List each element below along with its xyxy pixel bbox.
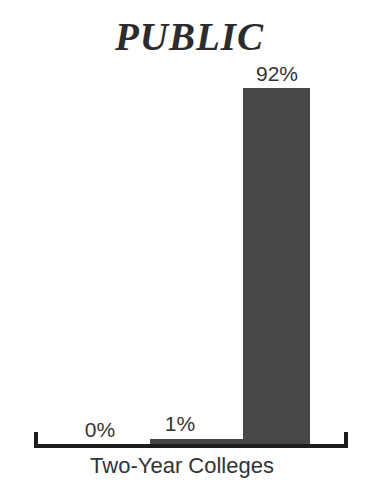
bar-value-label-92: 92% xyxy=(237,62,317,86)
x-axis-cap-right xyxy=(344,432,348,448)
x-axis-cap-left xyxy=(34,432,38,448)
bar-value-label-1: 1% xyxy=(150,412,210,436)
plot-area: 92% 1% 0% Two-Year Colleges xyxy=(0,0,379,489)
x-axis-line xyxy=(34,444,348,448)
bar-chart: PUBLIC 92% 1% 0% Two-Year Colleges xyxy=(0,0,379,489)
x-axis-label: Two-Year Colleges xyxy=(34,452,330,479)
bar-value-label-0: 0% xyxy=(70,418,130,442)
bar-92 xyxy=(243,88,310,444)
